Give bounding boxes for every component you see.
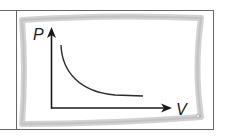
v-axis: V xyxy=(51,101,188,118)
p-axis-label: P xyxy=(33,26,44,43)
table-cell: P V xyxy=(0,0,225,138)
pv-diagram: P V xyxy=(0,0,225,138)
p-axis: P xyxy=(33,26,56,109)
pv-curve xyxy=(61,45,143,96)
v-axis-label: V xyxy=(176,101,188,118)
